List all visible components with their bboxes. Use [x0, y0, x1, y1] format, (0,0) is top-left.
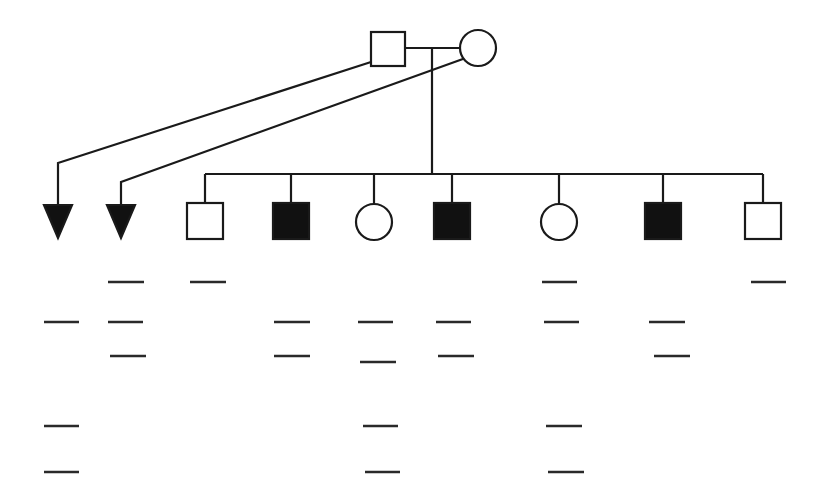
- connecting-lines: [58, 48, 763, 205]
- father-square-icon: [371, 32, 405, 66]
- loss-1-triangle-icon: [44, 205, 72, 238]
- pregnancy-losses: [44, 205, 135, 238]
- offspring: [187, 203, 781, 240]
- child-6-square-icon: [645, 203, 681, 239]
- child-7-square-icon: [745, 203, 781, 239]
- loss-2-triangle-icon: [107, 205, 135, 238]
- child-3-circle-icon: [356, 204, 392, 240]
- child-5-circle-icon: [541, 204, 577, 240]
- child-4-square-icon: [434, 203, 470, 239]
- pedigree-diagram: [0, 0, 818, 502]
- loss-1-connector: [58, 62, 371, 205]
- marker-bands: [44, 282, 786, 472]
- mother-circle-icon: [460, 30, 496, 66]
- child-2-square-icon: [273, 203, 309, 239]
- child-1-square-icon: [187, 203, 223, 239]
- loss-2-connector: [121, 55, 474, 205]
